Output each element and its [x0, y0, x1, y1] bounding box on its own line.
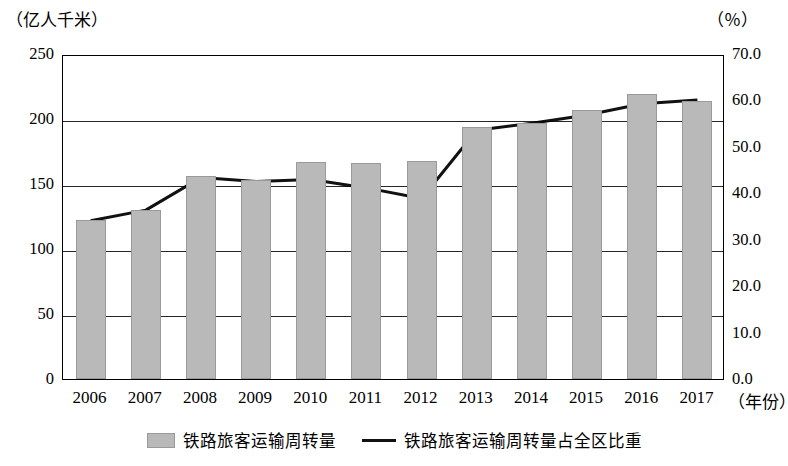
y-axis-tick: 250 — [4, 44, 54, 64]
y-axis-tick: 150 — [4, 174, 54, 194]
bar — [572, 110, 602, 379]
y2-axis-tick: 40.0 — [732, 183, 788, 203]
x-axis-unit: （年份） — [728, 388, 788, 413]
bar — [627, 94, 657, 379]
legend-bar-swatch — [147, 433, 175, 448]
y-axis-tick: 200 — [4, 109, 54, 129]
legend-line-label: 铁路旅客运输周转量占全区比重 — [404, 428, 642, 452]
bar — [131, 210, 161, 379]
y2-axis-tick: 60.0 — [732, 90, 788, 110]
right-axis-unit: （％） — [707, 6, 758, 31]
legend-item-line: 铁路旅客运输周转量占全区比重 — [362, 428, 642, 452]
bar — [407, 161, 437, 379]
gridline — [63, 251, 723, 252]
chart-figure: （亿人千米） （％） 050100150200250 0.010.020.030… — [0, 0, 788, 466]
bar — [351, 163, 381, 379]
bar — [296, 162, 326, 379]
bar — [241, 180, 271, 379]
gridline — [63, 121, 723, 122]
y-axis-tick: 50 — [4, 304, 54, 324]
bar — [682, 101, 712, 379]
plot-area — [62, 55, 724, 380]
legend-line-swatch — [362, 439, 396, 442]
y2-axis-tick: 0.0 — [732, 369, 788, 389]
bar — [186, 176, 216, 379]
y2-axis-tick: 70.0 — [732, 44, 788, 64]
x-axis-tick: 2017 — [664, 388, 728, 408]
chart-legend: 铁路旅客运输周转量 铁路旅客运输周转量占全区比重 — [0, 428, 788, 452]
y-axis-tick: 100 — [4, 239, 54, 259]
y2-axis-tick: 10.0 — [732, 323, 788, 343]
bar — [517, 123, 547, 379]
y-axis-tick: 0 — [4, 369, 54, 389]
y2-axis-tick: 20.0 — [732, 276, 788, 296]
y2-axis-tick: 50.0 — [732, 137, 788, 157]
gridline — [63, 316, 723, 317]
y2-axis-tick: 30.0 — [732, 230, 788, 250]
bar — [76, 220, 106, 379]
bar — [462, 127, 492, 379]
gridline — [63, 186, 723, 187]
legend-item-bar: 铁路旅客运输周转量 — [147, 428, 336, 452]
line-series-layer — [63, 56, 725, 381]
left-axis-unit: （亿人千米） — [6, 6, 108, 31]
line-series — [91, 100, 698, 221]
legend-bar-label: 铁路旅客运输周转量 — [183, 428, 336, 452]
